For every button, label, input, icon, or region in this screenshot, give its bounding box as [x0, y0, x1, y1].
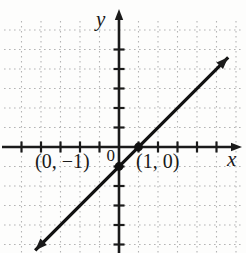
point-label-0-neg1: (0, −1) [35, 151, 90, 171]
plot-svg [0, 0, 246, 253]
coordinate-plane-figure: y x 0 (0, −1) (1, 0) [0, 0, 246, 253]
data-point [115, 162, 124, 171]
x-axis-label: x [227, 149, 236, 170]
point-label-1-0: (1, 0) [136, 151, 179, 171]
y-axis-arrowhead [115, 9, 123, 20]
y-axis-label: y [96, 9, 105, 30]
origin-label: 0 [100, 147, 115, 164]
